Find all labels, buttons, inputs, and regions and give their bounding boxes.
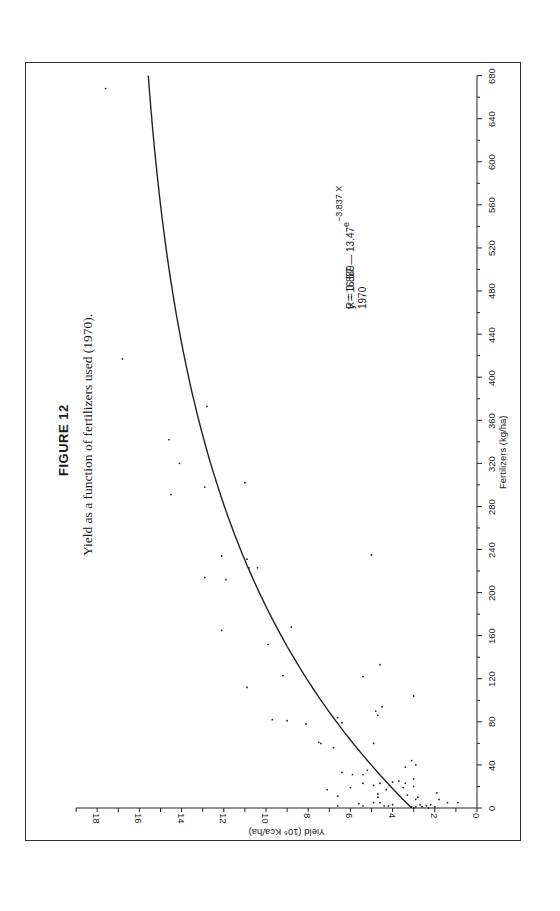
data-point [373, 802, 375, 804]
data-point [326, 789, 328, 791]
data-point [248, 567, 250, 569]
data-point [406, 794, 408, 796]
data-point [286, 720, 288, 722]
data-point [402, 787, 404, 789]
data-point [371, 554, 373, 556]
data-point [383, 805, 385, 807]
x-tick-label: 320 [486, 456, 497, 472]
data-point [421, 806, 423, 808]
x-tick-label: 240 [486, 542, 497, 558]
data-point [438, 798, 440, 800]
data-point [362, 676, 364, 678]
x-tick-label: 160 [486, 628, 497, 644]
y-tick-label: 6 [344, 813, 355, 818]
data-point [221, 555, 223, 557]
data-point [387, 805, 389, 807]
data-point [122, 358, 124, 360]
data-point [170, 494, 172, 496]
data-point [425, 805, 427, 807]
data-point [457, 802, 459, 804]
data-point [290, 626, 292, 628]
data-point [375, 710, 377, 712]
data-point [373, 742, 375, 744]
data-point [413, 807, 415, 809]
fit-curve-line [148, 76, 411, 808]
data-point [377, 793, 379, 795]
x-tick-label: 200 [486, 585, 497, 601]
data-point [373, 784, 375, 786]
data-point [320, 742, 322, 744]
data-point [404, 766, 406, 768]
data-point [411, 760, 413, 762]
data-point [413, 778, 415, 780]
data-point [447, 802, 449, 804]
data-point [404, 782, 406, 784]
x-tick-label: 400 [486, 370, 497, 386]
data-point [341, 772, 343, 774]
data-point [257, 567, 259, 569]
data-point [246, 558, 248, 560]
y-tick-label: 14 [176, 813, 187, 824]
data-point [398, 780, 400, 782]
y-tick-label: 10 [260, 813, 271, 824]
data-point [244, 482, 246, 484]
data-point [379, 802, 381, 804]
equation-exponent: −3.837 X [334, 186, 344, 222]
data-point [434, 806, 436, 808]
data-point [350, 787, 352, 789]
data-point [168, 439, 170, 441]
year-label: 1970 [357, 287, 368, 309]
data-point [415, 764, 417, 766]
figure-caption: Yield as a function of fertilizers used … [80, 314, 96, 556]
data-point [377, 714, 379, 716]
x-tick-label: 560 [486, 197, 497, 213]
data-point [333, 747, 335, 749]
data-point [179, 462, 181, 464]
data-point [379, 782, 381, 784]
data-point [419, 804, 421, 806]
y-axis-label: Yield (10⁶ Kca/ha) [249, 827, 325, 838]
data-point [385, 789, 387, 791]
data-point [105, 88, 107, 90]
scatter-points [105, 88, 459, 809]
x-tick-label: 0 [486, 806, 497, 811]
data-point [411, 806, 413, 808]
data-point [428, 807, 430, 809]
data-point [362, 805, 364, 807]
data-point [305, 723, 307, 725]
data-point [337, 805, 339, 807]
x-tick-label: 360 [486, 413, 497, 429]
x-tick-label: 80 [486, 717, 497, 728]
data-point [362, 782, 364, 784]
y-tick-label: 0 [471, 813, 482, 818]
chart-axes [76, 76, 482, 812]
x-tick-label: 680 [486, 68, 497, 84]
data-point [417, 796, 419, 798]
data-point [282, 675, 284, 677]
y-tick-label: 16 [133, 813, 144, 824]
data-point [358, 803, 360, 805]
y-tick-label: 18 [91, 813, 102, 824]
data-point [267, 643, 269, 645]
data-point [337, 717, 339, 719]
figure-number: FIGURE 12 [56, 404, 71, 476]
y-tick-label: 4 [387, 813, 398, 818]
data-point [436, 792, 438, 794]
data-point [206, 405, 208, 407]
x-axis-label: Fertilizers (kg/ha) [497, 416, 508, 489]
x-tick-label: 480 [486, 284, 497, 300]
x-tick-label: 600 [486, 154, 497, 170]
data-point [413, 695, 415, 697]
x-tick-label: 280 [486, 499, 497, 515]
data-point [379, 664, 381, 666]
x-tick-label: 440 [486, 327, 497, 343]
data-point [415, 806, 417, 808]
equation-base: e [341, 222, 351, 227]
data-point [377, 796, 379, 798]
data-point [430, 804, 432, 806]
data-point [413, 786, 415, 788]
data-point [415, 798, 417, 800]
y-tick-label: 8 [302, 813, 313, 818]
data-point [246, 686, 248, 688]
data-point [221, 629, 223, 631]
